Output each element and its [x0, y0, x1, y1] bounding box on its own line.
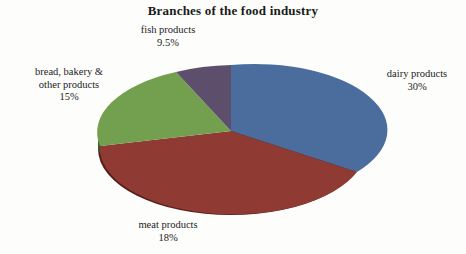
slice-label-meat-percent: 18%: [88, 232, 248, 245]
pie-graphic: [0, 0, 466, 254]
slice-label-bread-name-line2: other products: [8, 79, 130, 92]
slice-label-fish: fish products 9.5%: [108, 24, 228, 49]
pie-top-face: [97, 64, 387, 214]
slice-label-dairy-name: dairy products: [371, 68, 463, 81]
slice-label-meat-name: meat products: [88, 219, 248, 232]
slice-label-bread-percent: 15%: [8, 91, 130, 104]
slice-label-dairy-percent: 30%: [371, 81, 463, 94]
slice-label-bread-name-line1: bread, bakery &: [8, 66, 130, 79]
slice-label-fish-percent: 9.5%: [108, 37, 228, 50]
slice-label-dairy: dairy products 30%: [371, 68, 463, 93]
slice-label-fish-name: fish products: [108, 24, 228, 37]
pie-chart-figure: Branches of the food industry: [0, 0, 466, 254]
slice-label-meat: meat products 18%: [88, 219, 248, 244]
slice-label-bread: bread, bakery & other products 15%: [8, 66, 130, 104]
